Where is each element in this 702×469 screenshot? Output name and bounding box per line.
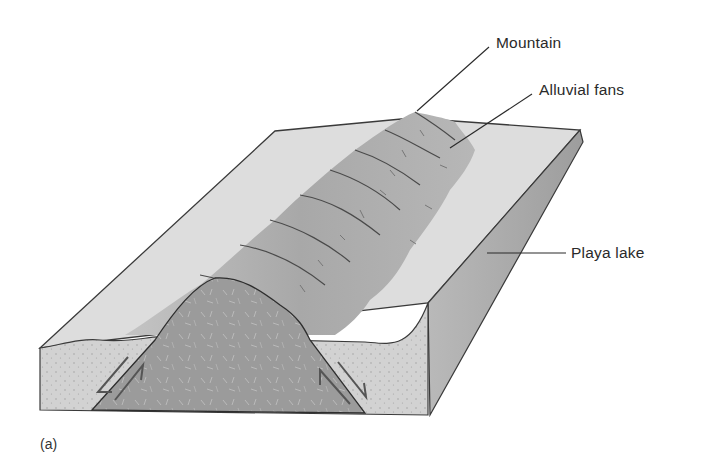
leader-mountain: [417, 47, 489, 111]
figure-caption: (a): [40, 436, 57, 452]
label-mountain: Mountain: [496, 34, 561, 52]
block-diagram: [0, 0, 702, 469]
label-playa-lake: Playa lake: [571, 244, 645, 262]
label-alluvial-fans: Alluvial fans: [539, 81, 624, 99]
